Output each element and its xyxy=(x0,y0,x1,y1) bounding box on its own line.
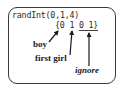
boy-arrow-icon xyxy=(49,31,58,42)
label-first-girl: first girl xyxy=(35,53,67,63)
annotation-arrows xyxy=(0,0,122,95)
label-ignore: ignore xyxy=(75,65,99,75)
label-boy: boy xyxy=(33,39,47,49)
first-girl-arrow-icon xyxy=(70,31,72,55)
